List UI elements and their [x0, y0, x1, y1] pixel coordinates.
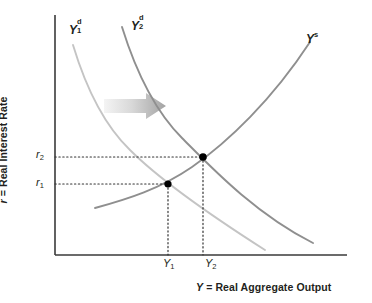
curve-label-demand-1: Yd1: [69, 22, 83, 36]
x-tick-label-y1-subscript: 1: [170, 262, 174, 271]
y-axis-title: r = Real Interest Rate: [0, 97, 8, 204]
y-tick-label-r1-subscript: 1: [40, 181, 44, 190]
curve-label-demand-1-subscript: 1: [77, 27, 81, 35]
curve-label-demand-1-affixes: d1: [77, 22, 83, 34]
curve-label-demand-2: Yd2: [131, 18, 145, 32]
curve-demand-2: [122, 27, 313, 243]
curve-label-demand-1-base: Y: [69, 23, 77, 37]
y-tick-label-r1: r1: [36, 177, 44, 190]
y-tick-label-r2-subscript: 2: [40, 153, 44, 162]
x-axis-title-text: = Real Aggregate Output: [203, 281, 331, 293]
curve-label-demand-2-subscript: 2: [139, 23, 143, 31]
y-axis-title-text: = Real Interest Rate: [0, 97, 9, 200]
curve-label-demand-2-affixes: d2: [139, 18, 145, 30]
diagram-canvas: [0, 0, 372, 303]
curve-supply: [95, 42, 310, 208]
curve-demand-1: [73, 45, 265, 250]
x-tick-label-y2-subscript: 2: [212, 262, 216, 271]
equilibrium-point-2: [199, 153, 207, 161]
curve-label-supply: Ys: [306, 31, 318, 45]
curve-label-demand-2-superscript: d: [139, 14, 144, 22]
guide-lines-equilibrium-1: [55, 184, 168, 255]
curve-label-supply-superscript: s: [314, 30, 318, 39]
x-tick-label-y1: Y1: [163, 258, 175, 271]
curve-label-demand-1-superscript: d: [77, 18, 82, 26]
equilibrium-point-1: [164, 180, 171, 187]
economics-diagram: r = Real Interest Rate Y = Real Aggregat…: [0, 0, 372, 303]
curve-label-demand-2-base: Y: [131, 19, 139, 33]
guide-lines-equilibrium-2: [55, 157, 203, 255]
x-tick-label-y2: Y2: [205, 258, 217, 271]
curve-label-supply-base: Y: [306, 32, 314, 46]
y-tick-label-r2: r2: [36, 149, 44, 162]
y-axis-title-variable: r: [0, 199, 9, 203]
x-axis-title: Y = Real Aggregate Output: [196, 282, 331, 293]
